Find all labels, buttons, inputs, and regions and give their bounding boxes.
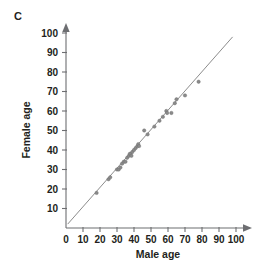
y-tick-label-10: 10 [47,203,59,214]
identity-reference-line [68,37,233,224]
figure-panel-c: C 102030405060708090100 0102030405060708… [0,0,268,270]
data-point [197,80,200,83]
x-tick-label-80: 80 [196,234,208,245]
axes [62,23,252,232]
x-axis-arrow [243,224,252,231]
x-tick-label-20: 20 [94,234,106,245]
x-tick-label-10: 10 [77,234,89,245]
x-tick-label-30: 30 [111,234,123,245]
x-tick-label-70: 70 [179,234,191,245]
data-point [119,166,122,169]
y-tick-label-100: 100 [41,28,58,39]
y-tick-label-60: 60 [47,106,59,117]
y-tick-label-30: 30 [47,164,59,175]
data-point [153,125,156,128]
y-tick-label-90: 90 [47,47,59,58]
scatter-plot: 102030405060708090100 010203040506070809… [0,0,268,270]
data-point [130,154,133,157]
y-tick-label-70: 70 [47,86,59,97]
data-point [124,160,127,163]
data-point [165,111,168,114]
data-points [95,80,200,195]
x-axis-tick-labels: 0102030405060708090100 [63,234,245,245]
y-axis-tick-labels: 102030405060708090100 [41,28,58,215]
data-point [170,111,173,114]
data-point [95,191,98,194]
data-point [183,94,186,97]
data-point [137,144,140,147]
data-point [158,119,161,122]
y-tick-label-50: 50 [47,125,59,136]
data-point [161,115,164,118]
x-tick-label-90: 90 [213,234,225,245]
y-axis-title: Female age [20,101,32,158]
x-tick-label-60: 60 [162,234,174,245]
y-tick-label-80: 80 [47,67,59,78]
x-tick-label-50: 50 [145,234,157,245]
x-tick-label-40: 40 [128,234,140,245]
data-point [173,102,176,105]
data-point [146,133,149,136]
data-point [109,176,112,179]
y-axis-arrow [62,23,69,32]
x-tick-label-100: 100 [228,234,245,245]
data-point [143,129,146,132]
data-point [175,98,178,101]
y-tick-label-40: 40 [47,145,59,156]
x-tick-label-0: 0 [63,234,69,245]
x-axis-title: Male age [136,248,181,260]
y-tick-label-20: 20 [47,184,59,195]
